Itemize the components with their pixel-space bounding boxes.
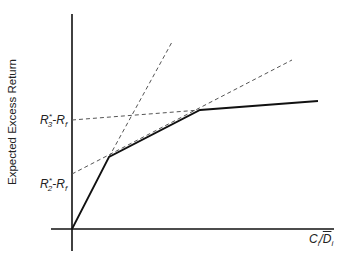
dashed-line-r3: [72, 110, 200, 120]
r2-tick-label: R*2-Rf: [40, 176, 67, 193]
r3-f: f: [65, 120, 67, 129]
dashed-line-r2: [72, 60, 292, 174]
x-C: C: [309, 232, 318, 246]
frontier-line: [72, 101, 318, 229]
x-axis-label: Ci/Di: [309, 232, 333, 248]
x-i2: i: [331, 239, 333, 248]
chart-canvas: [0, 0, 351, 260]
r2-minus: -R: [52, 177, 65, 191]
r3-tick-label: R*3-Rf: [40, 112, 67, 129]
y-axis-label: Expected Excess Return: [6, 59, 18, 185]
r2-f: f: [65, 184, 67, 193]
r3-minus: -R: [52, 113, 65, 127]
